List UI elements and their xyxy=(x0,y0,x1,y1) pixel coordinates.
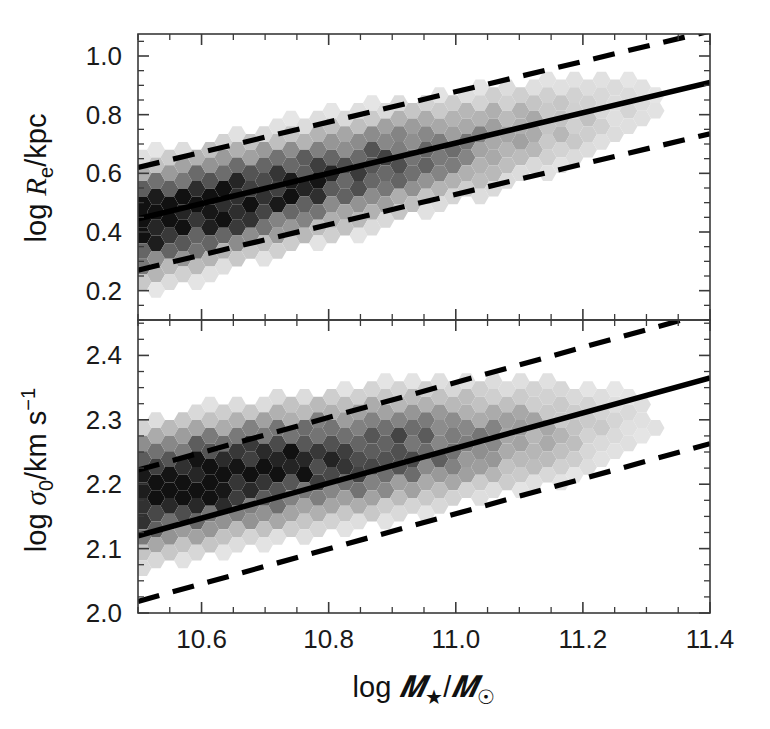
ytick-label: 0.6 xyxy=(86,158,122,188)
ylabel-bottom-subscript: 0 xyxy=(35,480,57,491)
yaxis-title-top: log Re/kpc xyxy=(20,114,57,243)
xtick-label: 11.0 xyxy=(431,624,480,654)
xaxis-title: log 𝑴★/𝑴☉ xyxy=(353,670,496,708)
ylabel-bottom-superscript: −1 xyxy=(17,388,39,411)
svg-text:log Re/kpc: log Re/kpc xyxy=(20,114,57,243)
svg-text:log σ0/km s−1: log σ0/km s−1 xyxy=(17,388,57,552)
xtick-label: 11.2 xyxy=(559,624,608,654)
xlabel-sun: ☉ xyxy=(477,686,495,708)
ytick-label: 2.4 xyxy=(86,340,122,370)
ytick-label: 2.1 xyxy=(86,534,122,564)
yaxis-title-bottom: log σ0/km s−1 xyxy=(17,388,57,552)
ytick-label: 0.4 xyxy=(86,217,122,247)
ylabel-top-subscript: e xyxy=(35,167,57,178)
ytick-label: 2.2 xyxy=(86,469,122,499)
xlabel-star: ★ xyxy=(425,686,443,708)
ylabel-bottom-suffix: /km s xyxy=(20,411,52,480)
ytick-label: 2.3 xyxy=(86,405,122,435)
ytick-label: 1.0 xyxy=(86,41,122,71)
ytick-label: 0.2 xyxy=(86,276,122,306)
ylabel-bottom-prefix: log xyxy=(20,505,52,552)
ytick-label: 0.8 xyxy=(86,100,122,130)
xlabel-prefix: log xyxy=(353,671,400,703)
ylabel-top-symbol: R xyxy=(20,178,52,197)
xtick-label: 10.8 xyxy=(303,624,354,654)
svg-text:log 𝑴★/𝑴☉: log 𝑴★/𝑴☉ xyxy=(353,670,496,708)
ytick-label: 2.0 xyxy=(86,598,122,628)
xtick-label: 11.4 xyxy=(686,624,735,654)
ylabel-top-suffix: /kpc xyxy=(20,114,52,167)
ylabel-top-prefix: log xyxy=(20,196,52,243)
figure-container: 0.20.40.60.81.02.02.12.22.32.410.610.811… xyxy=(0,0,770,729)
two-panel-scatter-figure: 0.20.40.60.81.02.02.12.22.32.410.610.811… xyxy=(0,0,770,729)
xtick-label: 10.6 xyxy=(176,624,227,654)
